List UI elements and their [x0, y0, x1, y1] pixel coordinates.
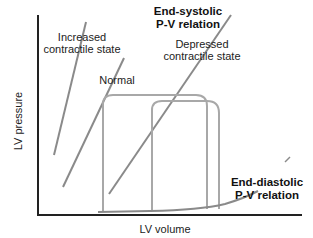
increased-label-line1: Increased [42, 31, 122, 43]
increased-label-line2: contractile state [42, 43, 122, 55]
espvr-label-line1: End-systolic [138, 5, 238, 18]
normal-label: Normal [92, 74, 142, 86]
edpvr-label: End-diastolic P-V relation [222, 176, 312, 202]
pv-loop-normal [103, 95, 207, 211]
espvr-label: End-systolic P-V relation [138, 5, 238, 31]
edpvr-curve-tick [285, 157, 290, 162]
edpvr-label-line2: P-V relation [222, 189, 312, 202]
depressed-label-line1: Depressed [162, 38, 242, 50]
espvr-label-line2: P-V relation [138, 18, 238, 31]
depressed-contractile-label: Depressed contractile state [162, 38, 242, 62]
increased-contractile-label: Increased contractile state [42, 31, 122, 55]
edpvr-label-line1: End-diastolic [222, 176, 312, 189]
x-axis-label: LV volume [130, 223, 200, 235]
depressed-label-line2: contractile state [162, 50, 242, 62]
y-axis-label: LV pressure [12, 91, 24, 151]
